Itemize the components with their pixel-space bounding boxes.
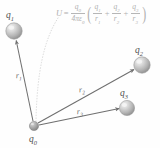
- charge-sphere-q2: [134, 57, 150, 73]
- physics-figure: q1 q2 q3 q0 r1 r2 r3 U = q0 4πε0: [0, 0, 160, 148]
- charge-sphere-q1: [6, 23, 22, 39]
- vector-r3: [39, 109, 119, 126]
- charge-sphere-q3: [119, 100, 134, 115]
- formula-leader-line: [36, 18, 58, 121]
- figure-canvas: [0, 0, 160, 148]
- vector-r1: [16, 41, 33, 122]
- charge-sphere-q0: [29, 121, 38, 130]
